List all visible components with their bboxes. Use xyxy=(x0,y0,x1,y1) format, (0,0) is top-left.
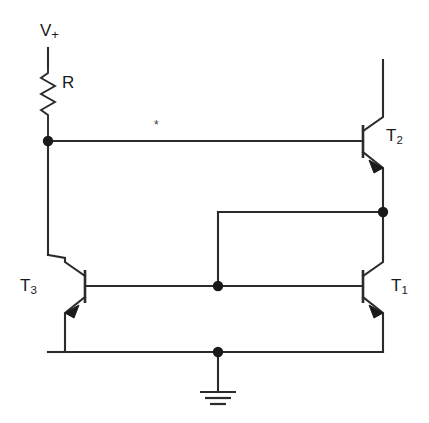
junction-node-collector-t3 xyxy=(43,136,53,146)
label-transistor-t3: T3 xyxy=(20,277,37,297)
circuit-diagram: V+ R T2 T1 T3 * xyxy=(0,0,429,423)
t1-collector-wire xyxy=(363,258,383,276)
junction-node-emitter-t2 xyxy=(378,207,388,217)
t3-collector-wire xyxy=(48,255,85,276)
t2-emitter-wire xyxy=(363,152,383,212)
label-supply-vplus: V+ xyxy=(40,22,59,41)
label-transistor-t1: T1 xyxy=(391,277,408,297)
resistor-R-symbol xyxy=(41,68,55,141)
t3-emitter-wire xyxy=(65,297,85,352)
label-star-marker: * xyxy=(154,119,158,131)
label-transistor-t2: T2 xyxy=(386,127,403,147)
junction-node-ground xyxy=(213,347,223,357)
t1-emitter-wire xyxy=(363,297,383,352)
label-resistor-r: R xyxy=(62,74,74,91)
t2-collector-wire xyxy=(363,60,383,131)
schematic-canvas xyxy=(0,0,429,423)
junction-node-base-rail xyxy=(213,281,223,291)
